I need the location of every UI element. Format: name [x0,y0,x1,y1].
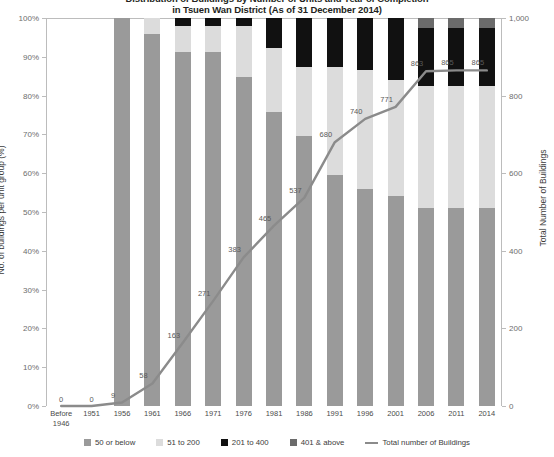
right-tick-mark [502,173,506,174]
left-tick-label: 40% [23,246,39,255]
line-point-label: 680 [320,130,333,139]
right-tick-mark [502,96,506,97]
right-tick-label: 0 [509,402,513,411]
right-tick-mark [502,251,506,252]
left-axis-title: No. of buildings per unit group (%) [0,146,6,275]
legend-line-swatch-icon [365,442,378,444]
left-tick-label: 10% [23,363,39,372]
legend-item-label: Total number of Buildings [382,438,470,447]
left-tick-label: 90% [23,52,39,61]
plot-inner: 0%10%20%30%40%50%60%70%80%90%100% 020040… [46,18,502,406]
right-tick-label: 1,000 [509,14,529,23]
line-point-label: 0 [59,395,63,404]
line-point-label: 163 [168,330,181,339]
legend-color-swatch-icon [221,439,228,446]
chart-container: Distribution of Buildings by Number of U… [0,0,554,457]
line-point-label: 771 [380,94,393,103]
legend-item-label: 401 & above [301,438,345,447]
left-tick-label: 60% [23,169,39,178]
left-tick-label: 100% [19,14,39,23]
left-tick-label: 20% [23,324,39,333]
right-axis-title: Total Number of Buildings [538,150,548,247]
line-point-label: 0 [90,395,94,404]
right-tick-label: 400 [509,246,522,255]
total-buildings-polyline [61,70,487,406]
left-tick-label: 80% [23,91,39,100]
line-point-label: 465 [259,213,272,222]
chart-title-line2: in Tsuen Wan District (As of 31 December… [0,4,554,15]
legend-item[interactable]: 201 to 400 [221,438,269,447]
plot-area: 0%10%20%30%40%50%60%70%80%90%100% 020040… [46,18,502,406]
right-tick-mark [502,328,506,329]
right-tick-label: 200 [509,324,522,333]
legend-item[interactable]: 51 to 200 [156,438,200,447]
right-tick-label: 800 [509,91,522,100]
x-axis-label: 2014 [465,409,509,419]
right-tick-mark [502,18,506,19]
right-tick-mark [502,406,506,407]
legend-item-label: 51 to 200 [167,438,200,447]
legend-color-swatch-icon [156,439,163,446]
chart-title: Distribution of Buildings by Number of U… [0,0,554,15]
line-point-label: 537 [289,185,302,194]
line-point-label: 58 [139,371,147,380]
line-point-label: 863 [411,59,424,68]
right-tick-label: 600 [509,169,522,178]
line-point-label: 740 [350,106,363,115]
legend-color-swatch-icon [84,439,91,446]
legend-item[interactable]: Total number of Buildings [365,438,470,447]
legend-color-swatch-icon [290,439,297,446]
left-tick-label: 70% [23,130,39,139]
legend-item[interactable]: 401 & above [290,438,345,447]
legend-item-label: 50 or below [95,438,135,447]
line-point-label: 865 [472,58,485,67]
line-point-label: 9 [111,390,115,399]
total-buildings-line [46,18,502,406]
left-tick-mark [42,406,46,407]
chart-legend: 50 or below51 to 200201 to 400401 & abov… [0,438,554,447]
x-axis-labels: Before1946195119561961196619711976198119… [46,409,502,433]
legend-item[interactable]: 50 or below [84,438,135,447]
legend-item-label: 201 to 400 [232,438,269,447]
left-tick-label: 50% [23,208,39,217]
left-tick-label: 30% [23,285,39,294]
left-tick-label: 0% [27,402,39,411]
line-point-label: 271 [198,288,211,297]
line-point-label: 383 [228,245,241,254]
line-point-label: 865 [441,58,454,67]
